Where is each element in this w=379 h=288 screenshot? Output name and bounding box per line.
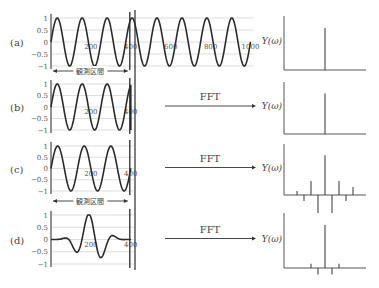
panel-c: 10.50−0.5−1200400(c)Y(ω)FFT [10,140,366,213]
y-tick-label: 0 [44,165,48,173]
interval-label: 観測区間 [76,67,104,76]
y-tick-label: 0 [44,236,48,244]
y-tick-label: −1 [38,188,48,196]
y-tick-label: 1 [44,212,48,220]
y-tick-label: 1 [44,81,48,89]
arrow-left-icon [53,69,57,73]
arrow-head-icon [252,237,256,241]
x-tick-label: 200 [84,108,97,116]
panel-d: 10.50−0.5−1200400(d)Y(ω)FFT [10,209,366,274]
fft-label: FFT [200,153,221,164]
arrow-head-icon [252,104,256,108]
spectrum-label: Y(ω) [262,234,283,244]
y-tick-label: −1 [38,127,48,135]
panel-label: (b) [10,102,24,113]
y-tick-label: 1 [44,143,48,151]
arrow-left-icon [53,199,57,203]
panel-a: 10.50−0.5−12004006008001000(a)Y(ω) [10,12,366,71]
y-tick-label: 1 [44,15,48,23]
y-tick-label: −1 [38,261,48,269]
arrow-right-icon [124,199,128,203]
y-tick-label: 0.5 [37,154,48,162]
fft-label: FFT [200,224,221,235]
panel-label: (c) [10,164,24,175]
fft-windowing-figure: 10.50−0.5−12004006008001000(a)Y(ω)10.50−… [0,0,379,288]
fft-label: FFT [200,91,221,102]
x-tick-label: 800 [204,43,217,51]
y-tick-label: 0 [44,39,48,47]
y-tick-label: 0.5 [37,224,48,232]
spectrum-label: Y(ω) [262,36,283,46]
observation-interval: 観測区間 [53,66,128,76]
arrow-right-icon [124,69,128,73]
y-tick-label: −0.5 [31,248,48,256]
observation-interval: 観測区間 [53,196,128,206]
y-tick-label: 0.5 [37,27,48,35]
y-tick-label: −0.5 [31,176,48,184]
y-tick-label: −0.5 [31,115,48,123]
interval-label: 観測区間 [76,197,104,206]
y-tick-label: 0 [44,104,48,112]
spectrum-label: Y(ω) [262,163,283,173]
panel-label: (d) [10,235,24,246]
panel-label: (a) [10,37,24,48]
arrow-head-icon [252,166,256,170]
y-tick-label: 0.5 [37,92,48,100]
waveform [51,215,131,258]
y-tick-label: −0.5 [31,51,48,59]
panel-b: 10.50−0.5−1200400(b)Y(ω)FFT [10,78,366,135]
x-tick-label: 200 [84,43,97,51]
spectrum-label: Y(ω) [262,101,283,111]
y-tick-label: −1 [38,63,48,71]
